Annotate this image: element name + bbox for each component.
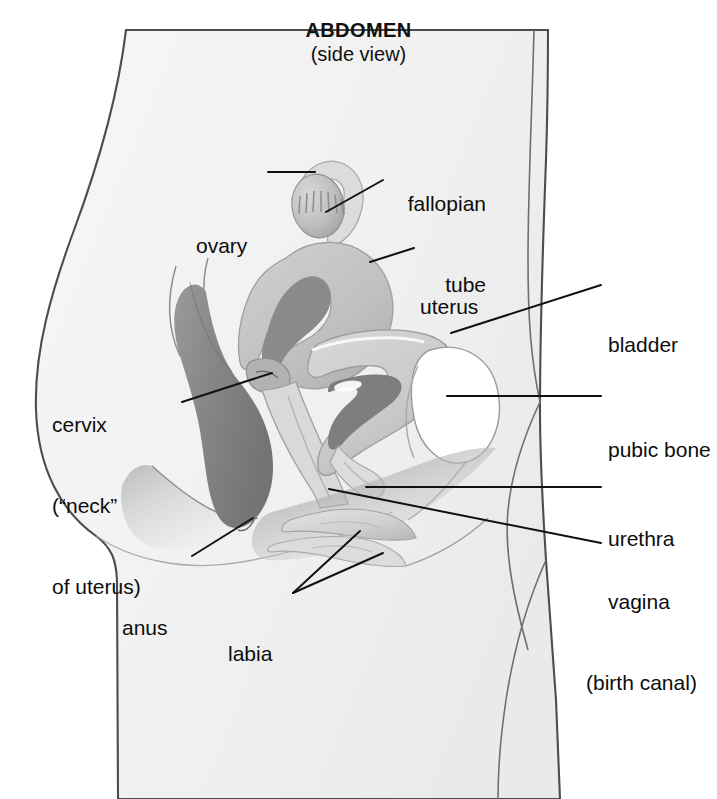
label-anus: anus <box>122 560 168 695</box>
label-ovary: ovary <box>196 178 247 313</box>
label-anus-line-1: anus <box>122 614 168 641</box>
label-cervix-line-1: cervix <box>52 411 141 438</box>
label-vagina-line-1: vagina <box>608 588 697 615</box>
label-vagina: vagina (birth canal) <box>608 534 697 750</box>
label-vagina-line-2: (birth canal) <box>586 669 697 696</box>
label-ovary-line-1: ovary <box>196 232 247 259</box>
label-bladder-line-1: bladder <box>608 331 678 358</box>
label-uterus-line-1: uterus <box>420 293 478 320</box>
label-cervix-line-2: (“neck” <box>52 492 141 519</box>
label-pubic-bone-line-1: pubic bone <box>608 436 711 463</box>
label-labia: labia <box>228 586 272 721</box>
diagram-page: ABDOMEN (side view) ovary fallopian tube… <box>0 0 717 799</box>
label-fallopian-line-1: fallopian <box>286 190 486 217</box>
label-labia-line-1: labia <box>228 640 272 667</box>
label-uterus: uterus <box>420 239 478 374</box>
